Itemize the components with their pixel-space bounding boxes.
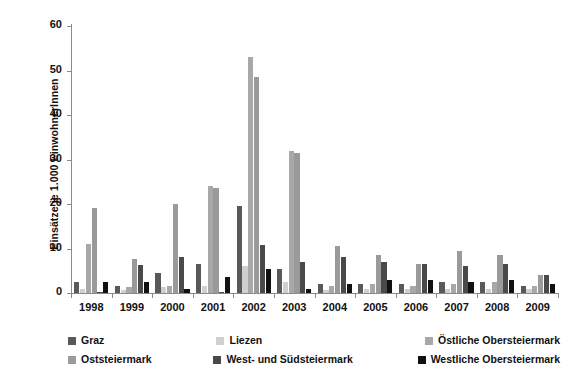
x-axis-tick-label: 2009	[517, 301, 558, 313]
y-axis-tick-label: 40	[50, 107, 62, 119]
bar	[532, 286, 537, 293]
bar	[115, 286, 120, 293]
bar	[399, 284, 404, 293]
bar	[335, 246, 340, 293]
bar	[306, 289, 311, 293]
bar	[341, 257, 346, 293]
bar	[167, 286, 172, 293]
x-axis-tick-mark	[558, 294, 559, 298]
bar	[121, 290, 126, 293]
x-axis-tick-mark	[71, 294, 72, 298]
bar	[300, 262, 305, 293]
bar-group	[112, 26, 153, 293]
bar	[318, 284, 323, 293]
bar	[92, 208, 97, 293]
legend-item-oststeiermark[interactable]: Oststeiermark	[68, 354, 213, 365]
plot-area	[71, 26, 558, 293]
bar	[74, 282, 79, 293]
bar	[86, 244, 91, 293]
legend-item-oestliche-obersteiermark[interactable]: Östliche Obersteiermark	[425, 335, 560, 346]
bar-group	[193, 26, 234, 293]
bar	[283, 282, 288, 293]
legend-swatch-oststeiermark	[68, 356, 76, 364]
bar	[381, 262, 386, 293]
bar	[329, 286, 334, 293]
legend-swatch-westliche-obersteiermark	[418, 356, 426, 364]
y-axis-tick-label: 20	[50, 196, 62, 208]
bar	[254, 77, 259, 293]
bar	[323, 290, 328, 293]
bar	[248, 57, 253, 293]
x-axis-tick-mark	[355, 294, 356, 298]
x-axis-tick-label: 1999	[112, 301, 153, 313]
bar	[294, 153, 299, 293]
bar	[213, 188, 218, 293]
bar	[358, 284, 363, 293]
bar	[480, 282, 485, 293]
bar-group	[315, 26, 356, 293]
bar	[497, 255, 502, 293]
x-axis-tick-label: 2006	[396, 301, 437, 313]
bar-group	[477, 26, 518, 293]
bar	[405, 289, 410, 293]
x-axis-tick-label: 2007	[436, 301, 477, 313]
legend-label-west-und-suedsteiermark: West- und Südsteiermark	[226, 354, 352, 365]
chart-legend: Graz Liezen Östliche Obersteiermark Osts…	[68, 331, 560, 369]
y-axis-tick-label: 0	[56, 285, 62, 297]
bar	[503, 264, 508, 293]
bar-group	[517, 26, 558, 293]
bar-chart: Einsätze je 1.000 EinwohnerInnen 0102030…	[0, 0, 567, 388]
bar	[179, 257, 184, 293]
x-axis-tick-mark	[112, 294, 113, 298]
bar	[347, 284, 352, 293]
x-axis-tick-mark	[152, 294, 153, 298]
bar	[544, 275, 549, 293]
bar	[242, 266, 247, 293]
bar	[509, 280, 514, 293]
legend-row-1: Graz Liezen Östliche Obersteiermark	[68, 331, 560, 350]
legend-item-liezen[interactable]: Liezen	[216, 335, 425, 346]
bar-group	[152, 26, 193, 293]
bar	[184, 289, 189, 293]
bar	[521, 286, 526, 293]
x-axis-tick-label: 2008	[477, 301, 518, 313]
legend-item-westliche-obersteiermark[interactable]: Westliche Obersteiermark	[418, 354, 560, 365]
bar-group	[436, 26, 477, 293]
bar	[155, 273, 160, 293]
bar	[468, 282, 473, 293]
bar	[277, 269, 282, 293]
legend-row-2: Oststeiermark West- und Südsteiermark We…	[68, 350, 560, 369]
x-axis-tick-mark	[274, 294, 275, 298]
bar	[196, 264, 201, 293]
x-axis-tick-mark	[396, 294, 397, 298]
legend-item-graz[interactable]: Graz	[68, 335, 216, 346]
bar	[376, 255, 381, 293]
bar	[387, 280, 392, 293]
legend-swatch-liezen	[216, 337, 224, 345]
bar-group	[396, 26, 437, 293]
x-axis-tick-label: 2002	[233, 301, 274, 313]
x-axis-tick-label: 2003	[274, 301, 315, 313]
bar	[445, 289, 450, 293]
bar	[225, 277, 230, 293]
bar	[126, 287, 131, 293]
bar	[416, 264, 421, 293]
x-axis-tick-label: 2000	[152, 301, 193, 313]
bar	[289, 151, 294, 293]
legend-item-west-und-suedsteiermark[interactable]: West- und Südsteiermark	[213, 354, 417, 365]
x-axis-tick-mark	[477, 294, 478, 298]
bar-group	[71, 26, 112, 293]
y-axis-tick-label: 50	[50, 63, 62, 75]
bar	[97, 292, 102, 293]
bar	[208, 186, 213, 293]
bar	[266, 269, 271, 293]
bar	[364, 289, 369, 293]
legend-label-liezen: Liezen	[229, 335, 262, 346]
bar	[260, 245, 265, 293]
legend-swatch-west-und-suedsteiermark	[213, 356, 221, 364]
bar	[237, 206, 242, 293]
x-axis-tick-mark	[517, 294, 518, 298]
bar	[138, 265, 143, 293]
x-axis-tick-mark	[193, 294, 194, 298]
bar	[132, 259, 137, 293]
